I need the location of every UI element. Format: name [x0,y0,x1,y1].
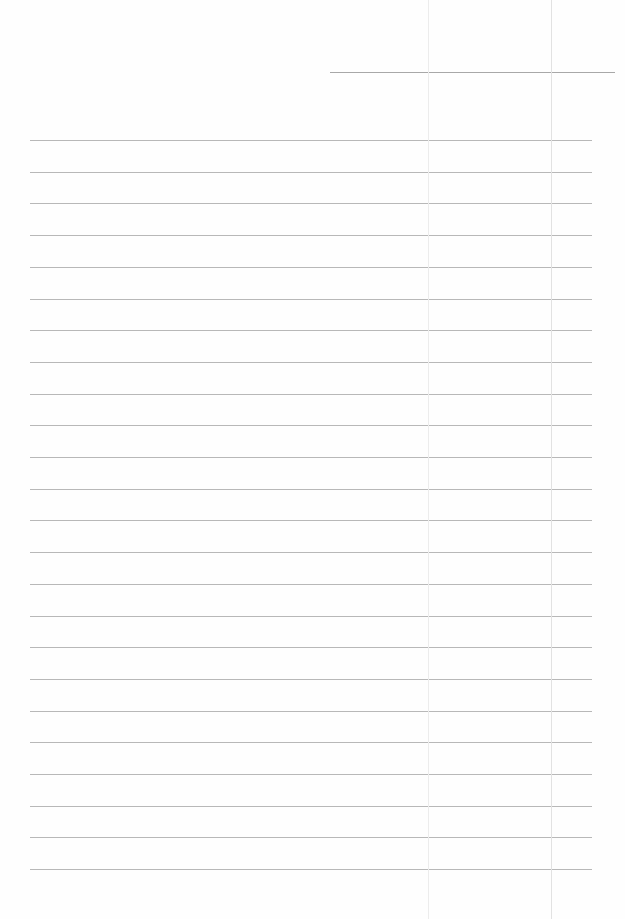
ruled-line [30,647,592,648]
ruled-line [30,584,592,585]
header-rule [330,72,615,73]
ruled-line [30,520,592,521]
ruled-line [30,267,592,268]
ruled-line [30,489,592,490]
ruled-line [30,679,592,680]
ruled-line [30,172,592,173]
ruled-line [30,742,592,743]
ruled-line [30,774,592,775]
ruled-line [30,837,592,838]
ruled-line [30,330,592,331]
ruled-line [30,203,592,204]
ruled-line [30,425,592,426]
ruled-line [30,394,592,395]
vertical-guide [551,0,552,919]
ruled-line [30,711,592,712]
ruled-line [30,235,592,236]
ruled-line [30,457,592,458]
ruled-line [30,552,592,553]
ruled-line [30,362,592,363]
ruled-line [30,616,592,617]
ruled-line [30,806,592,807]
ruled-line [30,140,592,141]
ruled-line [30,299,592,300]
notepaper-page [0,0,625,919]
ruled-line [30,869,592,870]
vertical-guide [428,0,429,919]
